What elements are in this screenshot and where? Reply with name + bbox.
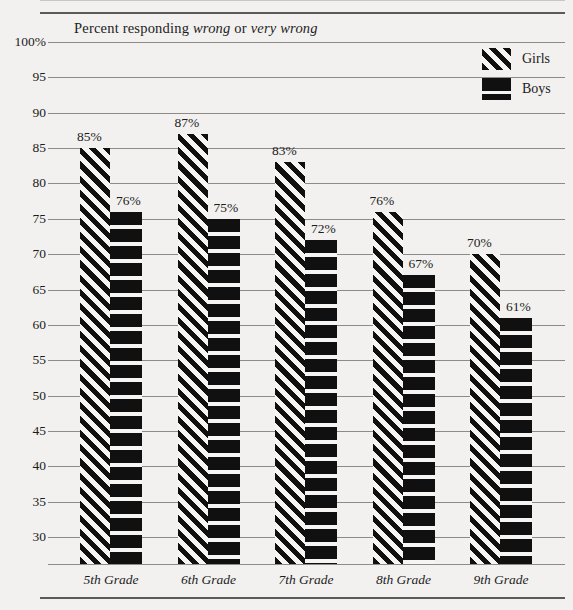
y-axis-tick-label: 90 <box>0 106 46 120</box>
bar-girls-9th-grade <box>470 254 500 564</box>
gridline <box>48 183 565 184</box>
gridline <box>48 113 565 114</box>
bar-boys-9th-grade <box>500 318 532 564</box>
x-axis-line <box>48 564 565 565</box>
plot-area: 85%76%87%75%83%72%76%67%70%61% <box>48 42 565 564</box>
chart-title-part-2: or <box>231 20 251 36</box>
y-axis-tick-label: 100% <box>0 35 46 49</box>
bar-girls-5th-grade <box>80 148 110 564</box>
y-axis-tick-label: 75 <box>0 212 46 226</box>
y-axis-tick-label: 60 <box>0 318 46 332</box>
x-axis-label-7th-grade: 7th Grade <box>257 572 355 588</box>
legend-label: Girls <box>522 51 550 67</box>
x-axis-label-8th-grade: 8th Grade <box>355 572 453 588</box>
bar-value-label: 75% <box>214 201 239 215</box>
bar-girls-8th-grade <box>373 212 403 564</box>
bar-boys-6th-grade <box>208 219 240 564</box>
bar-value-label: 70% <box>467 236 492 250</box>
solid-band-swatch <box>482 78 511 100</box>
y-axis-tick-label: 30 <box>0 530 46 544</box>
bar-value-label: 61% <box>506 300 531 314</box>
bar-value-label: 87% <box>175 116 200 130</box>
chart-figure: Percent responding wrong or very wrong 1… <box>0 0 573 610</box>
bar-value-label: 76% <box>370 194 395 208</box>
y-axis-tick-label: 40 <box>0 460 46 474</box>
y-axis-tick-label: 45 <box>0 424 46 438</box>
legend-label: Boys <box>522 81 551 97</box>
diagonal-stripe-swatch <box>482 48 511 70</box>
bar-value-label: 76% <box>116 194 141 208</box>
bar-value-label: 72% <box>311 222 336 236</box>
y-axis-tick-label: 55 <box>0 354 46 368</box>
x-axis-label-9th-grade: 9th Grade <box>452 572 550 588</box>
y-axis-tick-label: 50 <box>0 389 46 403</box>
bar-boys-8th-grade <box>403 275 435 564</box>
gridline <box>48 42 565 43</box>
bar-value-label: 67% <box>409 257 434 271</box>
bar-boys-7th-grade <box>305 240 337 564</box>
chart-title: Percent responding wrong or very wrong <box>74 20 318 37</box>
bar-girls-6th-grade <box>178 134 208 564</box>
chart-title-part-1: wrong <box>193 20 231 36</box>
figure-rule-faint <box>40 0 565 1</box>
y-axis-tick-label: 85 <box>0 141 46 155</box>
bar-value-label: 83% <box>272 144 297 158</box>
chart-title-part-0: Percent responding <box>74 20 193 36</box>
y-axis-tick-label: 65 <box>0 283 46 297</box>
x-axis-label-6th-grade: 6th Grade <box>160 572 258 588</box>
figure-top-rule <box>40 12 565 14</box>
x-axis-label-5th-grade: 5th Grade <box>62 572 160 588</box>
chart-title-part-3: very wrong <box>251 20 318 36</box>
y-axis-tick-labels: 100%9590858075706560555045403530 <box>0 42 46 564</box>
figure-bottom-rule <box>40 597 565 599</box>
bar-girls-7th-grade <box>275 162 305 564</box>
y-axis-tick-label: 95 <box>0 71 46 85</box>
y-axis-tick-label: 80 <box>0 177 46 191</box>
y-axis-tick-label: 70 <box>0 247 46 261</box>
bar-value-label: 85% <box>77 130 102 144</box>
y-axis-tick-label: 35 <box>0 495 46 509</box>
gridline <box>48 148 565 149</box>
bar-boys-5th-grade <box>110 212 142 564</box>
